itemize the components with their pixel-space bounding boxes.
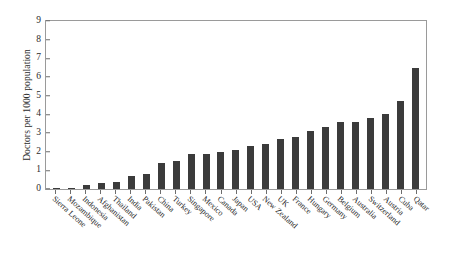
x-label-slot: Germany (319, 193, 334, 272)
y-tick-label: 8 (36, 35, 46, 45)
x-label-slot: USA (244, 193, 259, 272)
x-label-slot: Indonesia (78, 193, 93, 272)
bar-slot (199, 21, 214, 189)
x-label-slot: Austria (379, 193, 394, 272)
bar-slot (243, 21, 258, 189)
bar (173, 161, 180, 189)
bar-slot (348, 21, 363, 189)
bar-slot (109, 21, 124, 189)
bar (158, 163, 165, 189)
bar-series (46, 21, 426, 189)
bar (277, 139, 284, 189)
bar-slot (139, 21, 154, 189)
x-label-slot: New Zealand (259, 193, 274, 272)
x-label-slot: Canada (214, 193, 229, 272)
x-label-slot: Thailand (108, 193, 123, 272)
bar-slot (228, 21, 243, 189)
bar (337, 122, 344, 189)
y-tick-label: 5 (36, 91, 46, 101)
bar-slot (124, 21, 139, 189)
bar (382, 114, 389, 189)
bar-slot (378, 21, 393, 189)
bar (412, 68, 419, 189)
bar (232, 150, 239, 189)
bar (367, 118, 374, 189)
x-label-slot: Turkey (168, 193, 183, 272)
x-label-slot: Cuba (394, 193, 409, 272)
bar-slot (169, 21, 184, 189)
bar (143, 174, 150, 189)
x-label-slot: Qatar (409, 193, 424, 272)
bar (322, 127, 329, 189)
x-label-slot: Switzerland (364, 193, 379, 272)
bar-slot (363, 21, 378, 189)
bar-slot (154, 21, 169, 189)
bar-slot (94, 21, 109, 189)
x-axis-labels: Sierra LeoneMozambiqueIndonesiaAfghanist… (45, 193, 427, 272)
bar-slot (408, 21, 423, 189)
bar (83, 185, 90, 189)
bar-slot (184, 21, 199, 189)
x-label-slot: Sierra Leone (48, 193, 63, 272)
x-label-slot: Mozambique (63, 193, 78, 272)
x-tick-label: Qatar (411, 195, 430, 213)
bar (307, 131, 314, 189)
x-label-slot: Belgium (334, 193, 349, 272)
x-label-slot: UK (274, 193, 289, 272)
bar (188, 154, 195, 189)
x-label-slot: Pakistan (138, 193, 153, 272)
y-axis-title: Doctors per 1000 population (22, 25, 32, 185)
bar-slot (318, 21, 333, 189)
x-label-slot: Afghanistan (93, 193, 108, 272)
bar-chart: Doctors per 1000 population 0123456789 S… (0, 0, 457, 272)
bar-slot (393, 21, 408, 189)
x-label-slot: Australia (349, 193, 364, 272)
bar (397, 101, 404, 189)
bar (217, 152, 224, 189)
bar (262, 144, 269, 189)
bar-slot (288, 21, 303, 189)
x-label-slot: India (123, 193, 138, 272)
y-tick-label: 2 (36, 147, 46, 157)
bar-slot (64, 21, 79, 189)
bar-slot (79, 21, 94, 189)
bar (98, 183, 105, 189)
x-label-slot: Hungary (304, 193, 319, 272)
y-tick-label: 1 (36, 166, 46, 176)
x-label-slot: Singapore (183, 193, 198, 272)
x-label-slot: Mexico (198, 193, 213, 272)
y-tick-label: 9 (36, 16, 46, 26)
x-label-slot: China (153, 193, 168, 272)
bar-slot (273, 21, 288, 189)
x-label-slot: Japan (229, 193, 244, 272)
y-tick-label: 3 (36, 128, 46, 138)
plot-area: 0123456789 (45, 20, 427, 190)
bar (53, 188, 60, 189)
bar (113, 182, 120, 189)
bar-slot (333, 21, 348, 189)
bar (292, 137, 299, 189)
y-tick-label: 7 (36, 54, 46, 64)
x-label-slot: France (289, 193, 304, 272)
bar-slot (303, 21, 318, 189)
bar-slot (49, 21, 64, 189)
bar (352, 122, 359, 189)
bar (247, 146, 254, 189)
bar-slot (258, 21, 273, 189)
bar (128, 176, 135, 189)
y-tick-label: 4 (36, 110, 46, 120)
bar-slot (213, 21, 228, 189)
y-tick-label: 6 (36, 72, 46, 82)
bar (203, 154, 210, 189)
bar (68, 188, 75, 189)
